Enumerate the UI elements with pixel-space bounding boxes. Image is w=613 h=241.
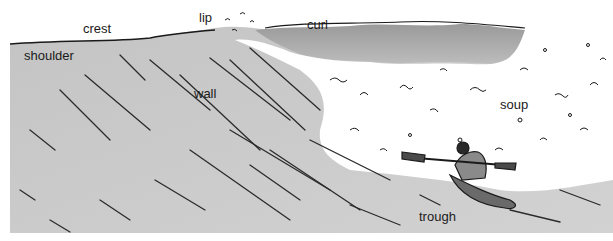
label-trough: trough (419, 210, 456, 223)
wave-diagram: crest lip curl shoulder wall soup trough (0, 0, 613, 241)
wave-illustration (0, 0, 613, 241)
label-lip: lip (199, 11, 212, 24)
label-soup: soup (500, 98, 528, 111)
paddler-head (457, 142, 469, 154)
label-shoulder: shoulder (24, 49, 74, 62)
label-curl: curl (307, 18, 328, 31)
label-wall: wall (194, 87, 216, 100)
label-crest: crest (83, 22, 111, 35)
